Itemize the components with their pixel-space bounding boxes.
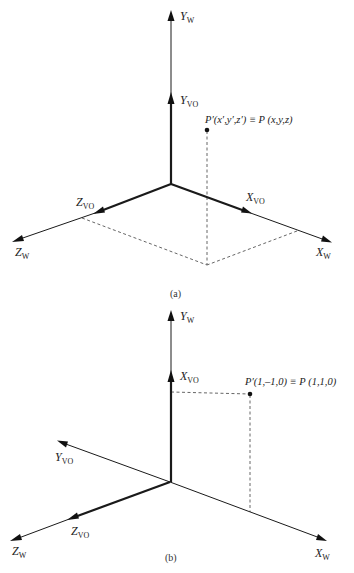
z-w-axis: [16, 518, 72, 539]
label-x-vo: XVO: [245, 190, 265, 206]
z-w-axis: [17, 212, 98, 240]
figure-a: YW YVO ZVO ZW XVO XW P′(x′,y′,z′) ≡ P (x…: [12, 9, 332, 300]
y-w-arrowhead-icon: [168, 10, 175, 21]
label-z-w: ZW: [15, 245, 30, 261]
label-y-w: YW: [180, 9, 195, 25]
point-p: [248, 392, 253, 397]
y-w-arrowhead-icon: [168, 310, 175, 321]
y-vo-axis: [63, 443, 170, 482]
x-vo-axis: [171, 184, 245, 211]
z-w-arrowhead-icon: [10, 534, 22, 541]
z-vo-axis: [72, 482, 170, 518]
caption-b: (b): [165, 552, 177, 564]
label-y-vo: YVO: [55, 450, 73, 466]
x-vo-arrowhead-icon: [168, 370, 175, 382]
projection-line-horizontal: [171, 392, 250, 394]
z-vo-axis: [98, 184, 171, 212]
projection-line-z: [82, 218, 207, 265]
label-z-vo: ZVO: [76, 195, 94, 211]
y-vo-arrowhead-icon: [57, 441, 68, 448]
point-label-b: P′(1,–1,0) ≡ P (1,1,0): [244, 376, 337, 388]
x-w-axis: [170, 482, 320, 538]
label-x-w: XW: [315, 245, 331, 261]
label-y-w: YW: [180, 309, 195, 325]
point-p: [205, 128, 210, 133]
figure-b: YW XVO YVO ZVO ZW XW P′(1,–1,0) ≡ P (1,1…: [10, 309, 337, 564]
x-w-arrowhead-icon: [316, 534, 327, 541]
projection-line-x: [207, 231, 297, 265]
caption-a: (a): [170, 288, 181, 300]
coordinate-systems-figure: YW YVO ZVO ZW XVO XW P′(x′,y′,z′) ≡ P (x…: [0, 0, 354, 573]
label-z-vo: ZVO: [71, 524, 89, 540]
point-label-a: P′(x′,y′,z′) ≡ P (x,y,z): [204, 114, 293, 126]
z-w-arrowhead-icon: [12, 235, 24, 242]
y-vo-arrowhead-icon: [168, 92, 175, 104]
x-w-arrowhead-icon: [321, 236, 332, 243]
label-y-vo: YVO: [180, 93, 198, 109]
label-z-w: ZW: [12, 544, 27, 560]
label-x-vo: XVO: [179, 369, 199, 385]
label-x-w: XW: [314, 546, 330, 562]
